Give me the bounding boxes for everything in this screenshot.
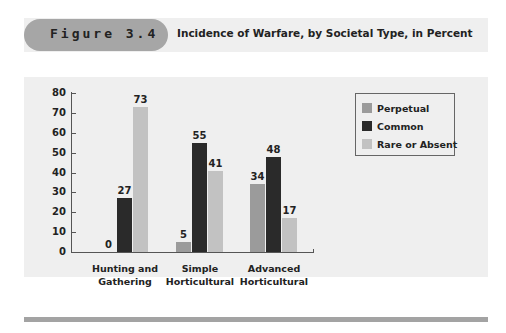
bar-perpetual: [250, 184, 265, 252]
y-tick: [71, 93, 76, 94]
x-axis: [71, 252, 314, 253]
y-tick-label: 20: [36, 207, 66, 217]
bar-value-label: 5: [174, 230, 194, 240]
legend-item-rare: Rare or Absent: [362, 138, 457, 150]
bar-value-label: 73: [131, 95, 151, 105]
y-tick-label: 80: [36, 88, 66, 98]
bar-value-label: 27: [115, 186, 135, 196]
bar-value-label: 48: [264, 145, 284, 155]
legend-label: Common: [377, 121, 424, 132]
y-tick-label: 30: [36, 187, 66, 197]
y-tick: [71, 232, 76, 233]
y-tick: [71, 212, 76, 213]
legend: Perpetual Common Rare or Absent: [355, 93, 455, 156]
bottom-rule: [24, 317, 488, 322]
bar-value-label: 34: [248, 172, 268, 182]
y-tick: [71, 173, 76, 174]
bar-rare-or-absent: [282, 218, 297, 252]
legend-swatch-rare: [362, 139, 372, 149]
y-tick-label: 10: [36, 227, 66, 237]
bar-value-label: 17: [280, 206, 300, 216]
bar-rare-or-absent: [133, 107, 148, 252]
figure-label: Figure 3.4: [50, 26, 158, 41]
y-tick: [71, 133, 76, 134]
bar-perpetual: [176, 242, 191, 252]
bar-value-label: 41: [206, 159, 226, 169]
category-label: AdvancedHorticultural: [229, 262, 319, 288]
legend-swatch-perpetual: [362, 103, 372, 113]
y-tick: [71, 252, 76, 253]
legend-item-common: Common: [362, 120, 424, 132]
legend-label: Perpetual: [377, 103, 429, 114]
bar-common: [266, 157, 281, 252]
figure-title: Incidence of Warfare, by Societal Type, …: [177, 27, 473, 39]
legend-swatch-common: [362, 121, 372, 131]
bar-value-label: 55: [190, 131, 210, 141]
bar-rare-or-absent: [208, 171, 223, 252]
y-tick-label: 50: [36, 148, 66, 158]
y-tick: [71, 113, 76, 114]
y-tick: [71, 153, 76, 154]
y-tick: [71, 192, 76, 193]
y-tick-label: 0: [36, 247, 66, 257]
bar-common: [117, 198, 132, 252]
legend-item-perpetual: Perpetual: [362, 102, 429, 114]
x-axis-end-tick: [313, 249, 314, 253]
y-tick-label: 40: [36, 168, 66, 178]
y-tick-label: 60: [36, 128, 66, 138]
y-tick-label: 70: [36, 108, 66, 118]
legend-label: Rare or Absent: [377, 139, 457, 150]
bar-value-label: 0: [99, 240, 119, 250]
